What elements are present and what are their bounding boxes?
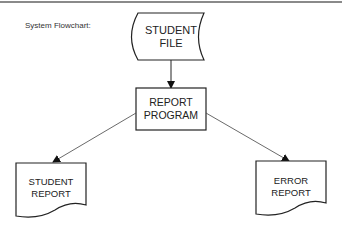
- node-label-line2: REPORT: [16, 188, 86, 200]
- node-label-line2: PROGRAM: [136, 109, 206, 122]
- node-label-line2: FILE: [138, 37, 204, 50]
- node-student-file: STUDENT FILE: [138, 24, 204, 50]
- node-label-line1: STUDENT: [138, 24, 204, 37]
- node-label-line1: STUDENT: [16, 176, 86, 188]
- node-error-report: ERROR REPORT: [256, 175, 326, 199]
- node-report-program: REPORT PROGRAM: [136, 96, 206, 122]
- edge-program-to-error-report: [206, 113, 289, 161]
- node-label-line1: ERROR: [256, 175, 326, 187]
- edge-program-to-student-report: [53, 113, 136, 162]
- node-label-line2: REPORT: [256, 187, 326, 199]
- node-label-line1: REPORT: [136, 96, 206, 109]
- node-student-report: STUDENT REPORT: [16, 176, 86, 200]
